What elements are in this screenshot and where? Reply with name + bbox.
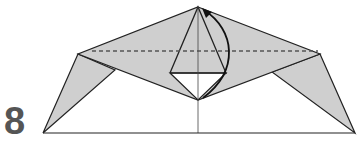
- origami-diagram: [0, 0, 359, 143]
- left-flap: [43, 54, 115, 133]
